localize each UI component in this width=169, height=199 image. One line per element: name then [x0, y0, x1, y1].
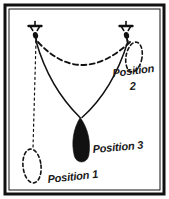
string-from-left-pivot — [36, 41, 80, 118]
label-position-2-number: 2 — [128, 80, 136, 92]
ghost-bob-position-1 — [21, 148, 42, 184]
pivot-right-icon — [120, 22, 133, 42]
drop-line-position-1 — [33, 41, 36, 148]
label-position-2: Position — [112, 62, 155, 79]
label-position-1: Position 1 — [47, 168, 99, 185]
pendulum-bob — [72, 117, 90, 162]
pivot-left-icon — [29, 22, 42, 42]
outer-border — [5, 5, 164, 194]
pivot-stem — [36, 38, 37, 42]
string-from-right-pivot — [82, 41, 128, 118]
swing-arc-path — [38, 42, 130, 65]
frame-inner-rule — [9, 9, 160, 190]
pivot-stem — [127, 38, 128, 42]
pendulum-figure: Position 1 Position 2 Position 3 — [0, 0, 169, 199]
label-position-3: Position 3 — [92, 139, 143, 155]
frame-outer-rule — [5, 5, 164, 194]
figure-canvas: Position 1 Position 2 Position 3 — [0, 0, 169, 199]
